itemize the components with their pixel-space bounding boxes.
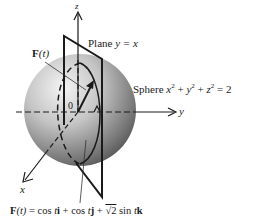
formula-eq: = cos [26,205,54,216]
formula-plus2: + [94,205,105,216]
formula-k: k [137,205,143,216]
origin-label: 0 [68,101,73,111]
formula-sin: sin [116,205,134,216]
plane-label-prefix: Plane [88,37,115,49]
formula-sqrt2: √2 [105,205,116,216]
y-axis-label: y [179,106,184,117]
z-axis-label: z [75,2,79,11]
sphere-eq-plus2: + [195,83,207,95]
plane-label-eq: y = x [115,37,138,49]
plane-label: Plane y = x [88,38,138,49]
curve-formula: F(t) = cos ti + cos tj + √2 sin tk [10,206,143,217]
vector-label: F(t) [32,48,49,59]
sphere-label: Sphere x2 + y2 + z2 = 2 [133,83,232,95]
formula-arg: (t) [16,205,26,216]
vector-label-bold: F [32,47,39,59]
sphere-label-prefix: Sphere [133,83,166,95]
x-axis [25,150,48,180]
sphere-plane-diagram [0,0,260,222]
sphere-eq-plus1: + [175,83,187,95]
formula-plus1: + cos [60,205,88,216]
sphere-eq-rhs: = 2 [214,83,231,95]
vector-label-arg: (t) [39,47,49,59]
x-axis-label: x [20,184,25,195]
